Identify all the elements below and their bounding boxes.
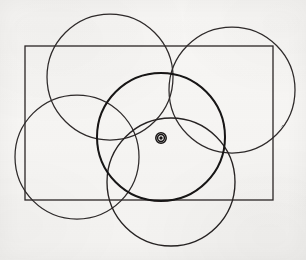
center-point-marker-group — [156, 133, 166, 143]
marker-center-dot — [159, 136, 162, 139]
geometric-drawing: Overlapping circles and rectangle constr… — [0, 0, 306, 260]
paper-background — [0, 0, 306, 260]
figure-canvas: Overlapping circles and rectangle constr… — [0, 0, 306, 260]
